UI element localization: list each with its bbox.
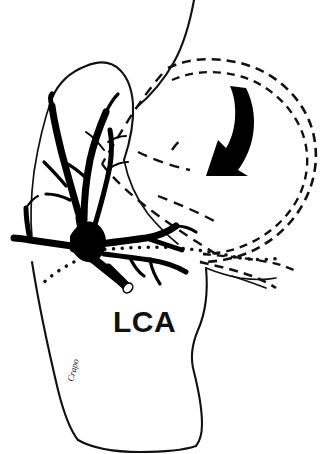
lca-label: LCA	[113, 305, 176, 338]
illustration-canvas: LCA Crapo	[0, 0, 333, 454]
anatomical-figure: LCA Crapo	[0, 0, 333, 454]
figure-background	[0, 0, 333, 454]
